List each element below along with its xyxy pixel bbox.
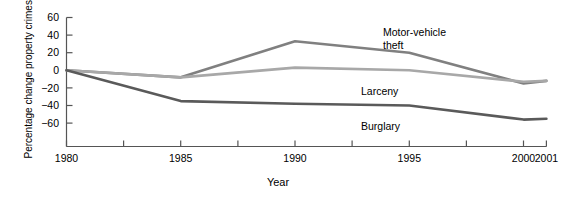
larceny-label: Larceny [361, 85, 398, 98]
y-tick-label-20: 20 [33, 46, 59, 58]
x-tick-label-1995: 1995 [389, 152, 429, 164]
y-tick-label-neg60: −60 [29, 117, 59, 129]
y-axis-title-text: Percentage change property crimes since … [23, 0, 34, 159]
burglary-label: Burglary [361, 120, 400, 133]
motor-vehicle-theft-label-line2: theft [383, 39, 446, 52]
x-tick-label-1990: 1990 [275, 152, 315, 164]
y-tick-label-neg40: −40 [29, 99, 59, 111]
x-tick-label-2001: 2001 [526, 152, 563, 164]
y-tick-label-60: 60 [33, 11, 59, 23]
y-tick-label-0: 0 [33, 64, 59, 76]
motor-vehicle-theft-label-line1: Motor-vehicle [383, 26, 446, 39]
x-axis-title-text: Year [267, 176, 289, 188]
motor-vehicle-theft-label: Motor-vehicle theft [383, 26, 446, 51]
x-axis-title: Year [0, 176, 556, 190]
x-axis-ticks [67, 141, 547, 147]
y-tick-label-neg20: −20 [29, 82, 59, 94]
x-tick-label-1980: 1980 [47, 152, 87, 164]
x-tick-label-1985: 1985 [161, 152, 201, 164]
y-tick-label-40: 40 [33, 29, 59, 41]
y-axis-title: Percentage change property crimes since … [22, 0, 35, 159]
